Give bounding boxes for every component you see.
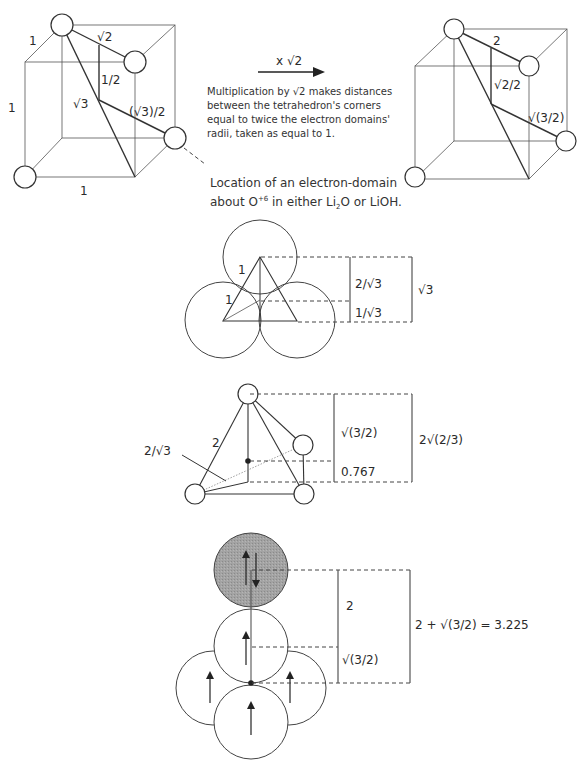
edge-label-top: 1 [29, 34, 37, 48]
edge-label-2: 1 [225, 293, 233, 307]
leader-label: 2/√3 [144, 444, 171, 458]
arrow-head-icon [313, 67, 325, 77]
electron-domain-circle [124, 51, 146, 73]
charge-superscript: +6 [258, 195, 268, 203]
electron-domain-circle [444, 19, 464, 39]
leader-line [184, 148, 205, 164]
location-note: Location of an electron-domain about O+6… [210, 175, 420, 215]
location-note-line1: Location of an electron-domain [210, 175, 420, 191]
total-dimension-label: √3 [418, 283, 433, 297]
total-dimension-label: 2√(2/3) [419, 433, 463, 447]
tetrahedron-view: 2 2/√3 √(3/2) 0.767 2√(2/3) [144, 384, 463, 504]
scale-arrow: x √2 [258, 54, 325, 77]
upper-dimension-label: 2/√3 [355, 277, 382, 291]
total-dimension-label: 2 + √(3/2) = 3.225 [415, 618, 529, 632]
electron-domain-circle [519, 56, 539, 76]
face-diagonal-label: √2 [97, 30, 112, 44]
scaling-note: Multiplication by √2 makes distances bet… [207, 85, 407, 141]
center-dot [245, 458, 251, 464]
electron-domain-circle [164, 127, 186, 149]
half-label: √2/2 [494, 78, 521, 92]
triangle-view: 1 1 2/√3 1/√3 √3 [185, 220, 433, 358]
half-label: 1/2 [101, 73, 120, 87]
lower-dimension-label: 1/√3 [355, 306, 382, 320]
upper-dimension-label: √(3/2) [341, 426, 377, 440]
location-text: in either Li [268, 195, 336, 209]
electron-domain-circle [556, 131, 576, 151]
right-cube: 2 √2/2 √(3/2) [405, 19, 576, 187]
location-note-line2: about O+6 in either Li2O or LiOH. [210, 191, 420, 215]
lower-dimension-label: 0.767 [341, 465, 375, 479]
left-cube: 1 1 1 √2 1/2 √3 (√3)/2 [8, 14, 205, 198]
location-text: O or LiOH. [340, 195, 401, 209]
upper-dimension-label: 2 [346, 599, 354, 613]
lower-dimension-label: √(3/2) [342, 653, 378, 667]
edge-label-1: 1 [238, 263, 246, 277]
body-diagonal-label: √3 [73, 97, 88, 111]
edge-label-side: 1 [8, 101, 16, 115]
edge-label-bottom: 1 [80, 184, 88, 198]
arrow-label: x √2 [276, 54, 302, 68]
electron-domain-circle [14, 166, 36, 188]
location-text: about O [210, 195, 258, 209]
stack-view: 2 √(3/2) 2 + √(3/2) = 3.225 [176, 533, 529, 759]
edge-label: 2 [212, 436, 220, 450]
electron-domain-circle [51, 14, 73, 36]
center-to-corner-label: (√3)/2 [129, 105, 165, 119]
center-to-corner-label: √(3/2) [528, 111, 564, 125]
face-diagonal-label: 2 [493, 34, 501, 48]
